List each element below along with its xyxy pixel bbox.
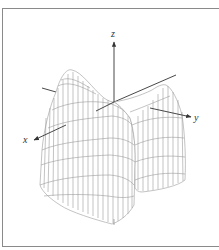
z-axis-label: z — [110, 28, 115, 39]
surface-plot: z x y — [0, 0, 219, 250]
x-axis-label: x — [22, 134, 28, 145]
surface-left-lobe — [40, 70, 135, 224]
figure-frame: z x y — [0, 0, 219, 250]
y-axis-label: y — [193, 112, 199, 123]
